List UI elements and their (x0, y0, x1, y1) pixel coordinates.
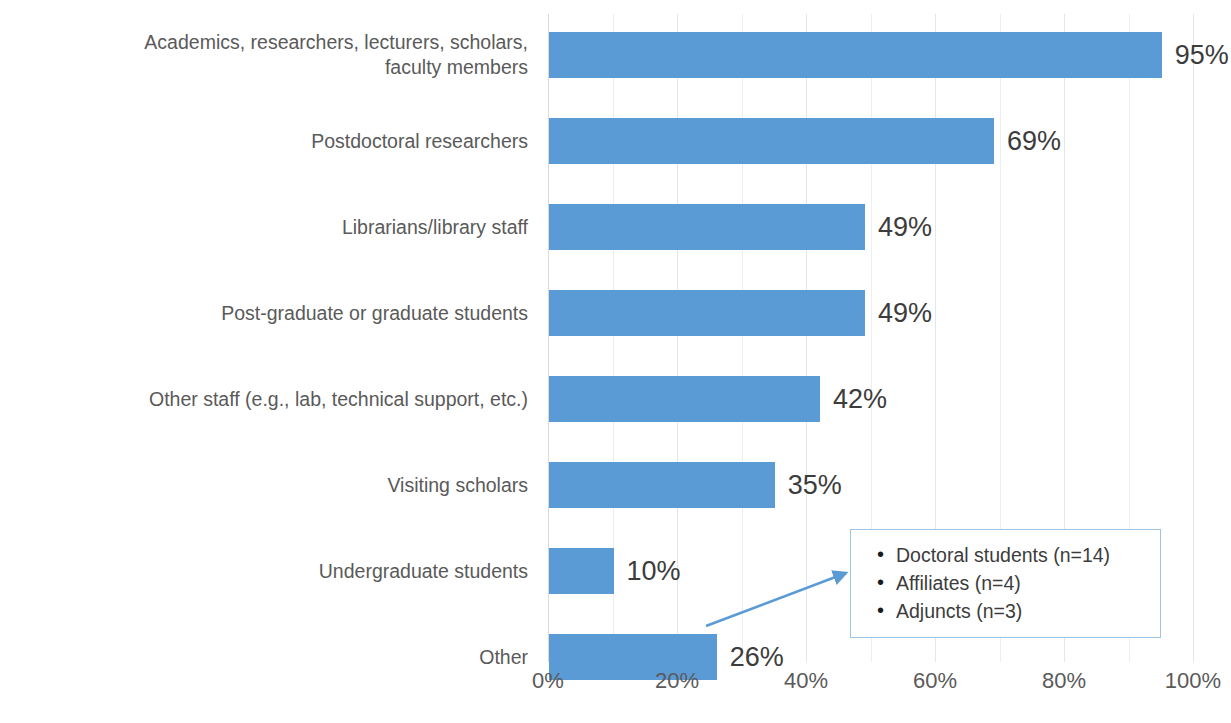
chart-category-row: 49% (548, 190, 1193, 276)
chart-category-row: 49% (548, 276, 1193, 362)
gridline (1193, 14, 1194, 662)
x-tick-label: 40% (784, 668, 828, 694)
bar-value-label: 10% (627, 548, 681, 594)
bar (549, 118, 994, 164)
horizontal-bar-chart: 95%69%49%49%42%35%10%26% 0%20%40%60%80%1… (0, 0, 1231, 723)
category-label: Post-graduate or graduate students (8, 301, 528, 326)
bar-value-label: 35% (788, 462, 842, 508)
category-label: Undergraduate students (8, 559, 528, 584)
chart-category-row: 69% (548, 104, 1193, 190)
x-tick-label: 20% (655, 668, 699, 694)
x-tick-label: 0% (532, 668, 564, 694)
bar (549, 290, 865, 336)
bar (549, 462, 775, 508)
callout-list-item: Affiliates (n=4) (877, 569, 1160, 597)
category-label: Librarians/library staff (8, 215, 528, 240)
callout-list-item: Adjuncts (n=3) (877, 597, 1160, 625)
bar-value-label: 49% (878, 290, 932, 336)
bar-value-label: 95% (1175, 32, 1229, 78)
chart-category-row: 42% (548, 362, 1193, 448)
x-tick-label: 80% (1042, 668, 1086, 694)
chart-category-row: 95% (548, 18, 1193, 104)
category-label: Academics, researchers, lecturers, schol… (8, 30, 528, 80)
bar (549, 204, 865, 250)
callout-box: Doctoral students (n=14)Affiliates (n=4)… (850, 529, 1161, 638)
category-label: Postdoctoral researchers (8, 129, 528, 154)
bar (549, 548, 614, 594)
bar-value-label: 69% (1007, 118, 1061, 164)
category-label: Other staff (e.g., lab, technical suppor… (8, 387, 528, 412)
x-axis-ticks: 0%20%40%60%80%100% (548, 668, 1193, 708)
chart-category-row: 35% (548, 448, 1193, 534)
callout-list: Doctoral students (n=14)Affiliates (n=4)… (851, 530, 1160, 625)
category-label: Other (8, 645, 528, 670)
bar-value-label: 42% (833, 376, 887, 422)
bar (549, 376, 820, 422)
bar (549, 32, 1162, 78)
bar-value-label: 49% (878, 204, 932, 250)
category-label: Visiting scholars (8, 473, 528, 498)
x-tick-label: 100% (1165, 668, 1221, 694)
callout-list-item: Doctoral students (n=14) (877, 541, 1160, 569)
x-tick-label: 60% (913, 668, 957, 694)
